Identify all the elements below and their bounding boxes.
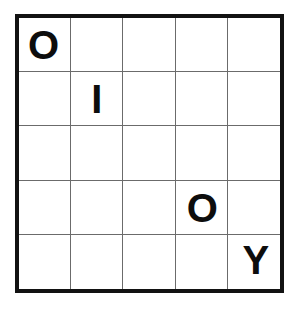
grid-cell-r5c4[interactable]: [176, 235, 228, 289]
grid-cell-r5c2[interactable]: [71, 235, 123, 289]
grid-cell-r1c3[interactable]: [123, 18, 175, 72]
grid-cell-r5c5[interactable]: Y: [228, 235, 280, 289]
grid-cell-r1c1[interactable]: O: [19, 18, 71, 72]
grid-cell-r1c2[interactable]: [71, 18, 123, 72]
grid-cell-r3c3[interactable]: [123, 126, 175, 180]
grid-cell-r5c1[interactable]: [19, 235, 71, 289]
grid-cell-r2c1[interactable]: [19, 72, 71, 126]
grid-cell-r2c3[interactable]: [123, 72, 175, 126]
grid-cell-r1c5[interactable]: [228, 18, 280, 72]
grid-cell-r5c3[interactable]: [123, 235, 175, 289]
grid-cell-r4c2[interactable]: [71, 181, 123, 235]
grid-cell-r2c2[interactable]: I: [71, 72, 123, 126]
grid-cell-r3c1[interactable]: [19, 126, 71, 180]
grid-cell-r4c4[interactable]: O: [176, 181, 228, 235]
cell-letter-r5c5: Y: [243, 240, 270, 280]
grid-cell-r1c4[interactable]: [176, 18, 228, 72]
grid-cell-r2c5[interactable]: [228, 72, 280, 126]
cell-letter-r2c2: I: [91, 79, 102, 119]
grid-cell-r3c5[interactable]: [228, 126, 280, 180]
grid-frame: O I: [15, 14, 284, 293]
grid-cells: O I: [19, 18, 280, 289]
grid-cell-r4c1[interactable]: [19, 181, 71, 235]
grid-cell-r3c2[interactable]: [71, 126, 123, 180]
grid-cell-r4c5[interactable]: [228, 181, 280, 235]
cell-letter-r4c4: O: [187, 188, 218, 228]
cell-letter-r1c1: O: [28, 25, 59, 65]
grid-cell-r2c4[interactable]: [176, 72, 228, 126]
letter-grid-puzzle: O I: [0, 0, 299, 310]
grid-cell-r4c3[interactable]: [123, 181, 175, 235]
grid-cell-r3c4[interactable]: [176, 126, 228, 180]
